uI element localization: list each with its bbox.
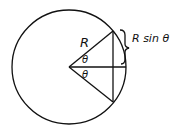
angle-lower-label: θ — [82, 69, 88, 80]
circle-chord-diagram: R θ θ R sin θ — [0, 0, 178, 134]
angle-upper-label: θ — [82, 54, 88, 65]
radius-upper-line — [69, 31, 113, 67]
r-sin-theta-label: R sin θ — [132, 32, 169, 45]
radius-lower-line — [69, 67, 113, 102]
radius-label: R — [80, 35, 89, 50]
curly-brace — [120, 30, 129, 64]
